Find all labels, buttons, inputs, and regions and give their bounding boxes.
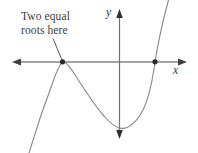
cubic-graph-figure: Two equal roots here y x: [0, 0, 198, 153]
annotation-leader-line: [53, 39, 62, 61]
y-axis: [116, 9, 123, 139]
x-axis: [12, 59, 187, 66]
x-axis-label: x: [173, 64, 178, 76]
double-root-point: [60, 59, 65, 64]
x-axis-right-arrow-icon: [178, 59, 187, 66]
annotation-label: Two equal roots here: [21, 10, 107, 37]
single-root-point: [152, 59, 157, 64]
y-axis-down-arrow-icon: [116, 130, 123, 139]
y-axis-up-arrow-icon: [116, 9, 123, 18]
x-axis-left-arrow-icon: [12, 59, 21, 66]
y-axis-label: y: [106, 6, 111, 18]
